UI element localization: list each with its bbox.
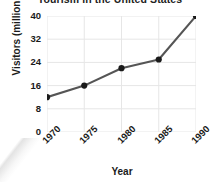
chart-title: Tourism in the United States	[0, 0, 220, 5]
data-point	[156, 56, 162, 62]
data-point	[118, 65, 124, 71]
data-point	[47, 94, 50, 100]
y-tick-label: 32	[13, 33, 41, 44]
vertical-gridlines	[47, 16, 196, 132]
y-tick-label: 16	[13, 80, 41, 91]
data-point	[81, 83, 87, 89]
line-chart-svg	[47, 16, 196, 132]
y-tick-label: 24	[13, 56, 41, 67]
plot-area	[47, 16, 196, 132]
y-tick-label: 0	[13, 126, 41, 137]
y-tick-label: 40	[13, 10, 41, 21]
y-tick-label: 8	[13, 103, 41, 114]
x-axis-label: Year	[47, 166, 197, 177]
chart-figure: Tourism in the United States Visitors (m…	[0, 0, 220, 182]
watermark-overlay	[0, 138, 46, 182]
x-tick-label: 1970	[40, 123, 63, 146]
